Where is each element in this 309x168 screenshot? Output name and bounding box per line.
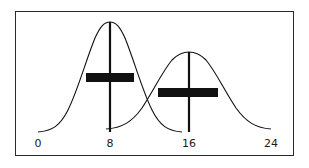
distribution-2-spread-bar (158, 88, 218, 97)
axis-tick-16: 16 (182, 137, 196, 150)
axis-tick-0: 0 (35, 137, 42, 150)
distribution-1-spread-bar (86, 73, 134, 82)
axis-tick-24: 24 (264, 137, 278, 150)
axis-tick-8: 8 (107, 137, 114, 150)
distribution-plot (0, 0, 309, 168)
